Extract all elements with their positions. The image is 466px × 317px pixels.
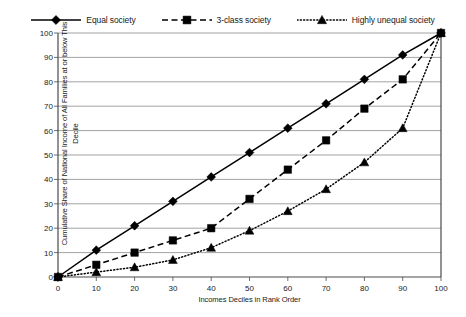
y-tick-label: 30 xyxy=(44,199,53,208)
plot-area: Cumulative Share of National Income of A… xyxy=(58,33,441,277)
x-axis-title: Incomes Deciles in Rank Order xyxy=(58,295,441,304)
x-tick-label: 30 xyxy=(168,284,177,293)
y-tick-label: 70 xyxy=(44,102,53,111)
legend-marker-triangle-icon xyxy=(317,15,326,23)
data-point-marker xyxy=(322,137,329,144)
legend-swatch-svg xyxy=(162,13,212,27)
data-point-marker xyxy=(246,195,253,202)
y-tick-label: 20 xyxy=(44,224,53,233)
data-point-marker xyxy=(245,226,254,234)
legend-item-1[interactable]: Equal society xyxy=(31,13,135,27)
y-tick-label: 0 xyxy=(49,273,53,282)
data-point-marker xyxy=(92,268,101,276)
data-point-marker xyxy=(207,224,214,231)
data-point-marker xyxy=(169,237,176,244)
x-tick-label: 50 xyxy=(245,284,254,293)
x-tick-label: 60 xyxy=(283,284,292,293)
data-point-marker xyxy=(361,105,368,112)
data-point-marker xyxy=(284,166,291,173)
data-point-marker xyxy=(322,185,331,193)
legend-swatch-svg xyxy=(297,13,347,27)
x-tick-label: 90 xyxy=(398,284,407,293)
x-tick-label: 10 xyxy=(92,284,101,293)
data-point-marker xyxy=(398,51,407,60)
data-point-marker xyxy=(131,249,138,256)
x-tick-label: 40 xyxy=(207,284,216,293)
x-tick-label: 100 xyxy=(434,284,447,293)
legend-label: 3-class society xyxy=(217,15,271,25)
y-tick-label: 10 xyxy=(44,248,53,257)
y-tick-label: 90 xyxy=(44,53,53,62)
x-tick-label: 20 xyxy=(130,284,139,293)
data-point-marker xyxy=(207,243,216,251)
legend-marker-square-icon xyxy=(183,16,191,24)
legend-label: Equal society xyxy=(86,15,135,25)
x-tick-label: 70 xyxy=(322,284,331,293)
legend-label: Highly unequal society xyxy=(352,15,435,25)
data-point-marker xyxy=(283,124,292,133)
data-point-marker xyxy=(360,75,369,84)
legend-item-3[interactable]: Highly unequal society xyxy=(297,13,435,27)
data-point-marker xyxy=(130,221,139,230)
y-tick-label: 100 xyxy=(40,29,53,38)
data-point-marker xyxy=(169,197,178,206)
legend-item-2[interactable]: 3-class society xyxy=(162,13,271,27)
legend-swatch-triangle-icon xyxy=(297,13,347,27)
y-axis-title: Cumulative Share of National Income of A… xyxy=(60,19,81,249)
data-point-marker xyxy=(207,173,216,182)
y-tick-label: 40 xyxy=(44,175,53,184)
y-tick-label: 60 xyxy=(44,126,53,135)
legend-swatch-square-icon xyxy=(162,13,212,27)
data-point-marker xyxy=(245,148,254,157)
data-point-marker xyxy=(283,207,292,215)
data-point-marker xyxy=(92,246,101,255)
data-point-marker xyxy=(322,99,331,108)
x-tick-label: 0 xyxy=(56,284,60,293)
plot-svg xyxy=(58,33,441,277)
lorenz-curve-chart: Equal society3-class societyHighly unequ… xyxy=(0,0,466,317)
data-point-marker xyxy=(399,76,406,83)
data-point-marker xyxy=(398,124,407,132)
y-tick-label: 50 xyxy=(44,151,53,160)
x-tick-label: 80 xyxy=(360,284,369,293)
y-tick-label: 80 xyxy=(44,77,53,86)
